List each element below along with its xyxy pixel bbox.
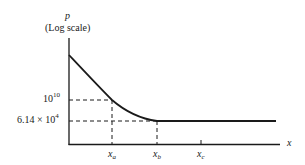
x-tick-sub: b xyxy=(157,153,161,161)
y-tick-base: 6.14 × 10 xyxy=(17,114,55,125)
y-tick-base: 10 xyxy=(43,93,53,104)
y-axis-label: p xyxy=(65,11,70,21)
data-curve xyxy=(69,55,276,121)
x-tick-label-xb: xb xyxy=(153,149,161,159)
x-tick-sub: c xyxy=(201,153,204,161)
x-tick-label-xc: xc xyxy=(197,149,205,159)
y-tick-label-1e10: 1010 xyxy=(43,94,60,104)
x-tick-sub: a xyxy=(112,153,116,161)
y-tick-label-614e4: 6.14 × 104 xyxy=(17,115,59,125)
x-axis-label: x xyxy=(287,138,291,148)
y-axis-scale-note: (Log scale) xyxy=(45,23,90,33)
y-tick-exp: 10 xyxy=(53,91,60,99)
y-tick-exp: 4 xyxy=(55,112,59,120)
x-tick-label-xa: xa xyxy=(108,149,116,159)
